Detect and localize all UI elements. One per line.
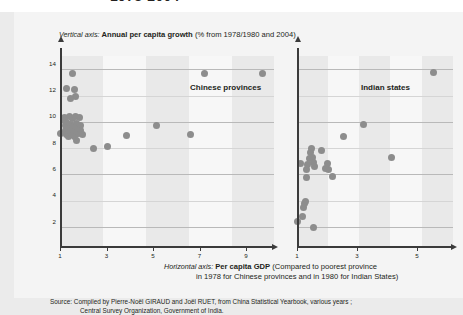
x-tick-label: 1 [290,252,304,259]
gridline [297,201,453,202]
source-note: Source: Compiled by Pierre-Noël GIRAUD a… [50,297,352,315]
data-point [71,86,78,93]
y-tick-label: 10 [42,112,56,119]
data-point [303,174,310,181]
data-point [360,121,367,128]
y-axis-left [60,48,62,248]
horizontal-axis-caption-line2: in 1978 for Chinese provinces and in 198… [196,272,463,282]
data-point [259,70,266,77]
x-axis-right [297,246,453,248]
gridline [297,227,453,228]
group-label-chinese-provinces: Chinese provinces [190,83,261,92]
group-label-indian-states: Indian states [361,83,410,92]
data-point [76,114,83,121]
gridline [60,174,274,175]
horizontal-axis-caption-prefix: Horizontal axis: [164,262,213,271]
y-axis-arrow-icon [295,36,301,42]
y-tick-label: 6 [42,165,56,172]
gridline [60,69,274,70]
y-axis-arrow-icon [58,36,64,42]
data-point [302,198,309,205]
data-point [311,163,318,170]
chart-chinese-provinces: Chinese provinces 2468101214 13579 [60,56,274,248]
data-point [322,165,329,172]
data-point [153,122,160,129]
x-tick-mark [357,248,358,251]
x-tick-mark [417,248,418,251]
gridline [60,122,274,123]
x-tick-label: 5 [410,252,424,259]
horizontal-axis-caption-bold: Per capita GDP [215,262,270,271]
x-tick-mark [60,248,61,251]
gridline [60,96,274,97]
data-point [430,69,437,76]
source-line-2: Central Survey Organization, Government … [80,306,352,315]
vertical-axis-caption-prefix: Vertical axis: [59,30,99,39]
data-point [69,70,76,77]
vertical-axis-caption-bold: Annual per capita growth [102,30,193,39]
source-line-1: Source: Compiled by Pierre-Noël GIRAUD a… [50,298,352,305]
x-tick-label: 5 [146,252,160,259]
x-axis-arrow-icon [272,244,278,250]
x-tick-mark [246,248,247,251]
y-tick-label: 8 [42,139,56,146]
data-point [329,173,336,180]
gridline [297,96,453,97]
y-tick-label: 2 [42,218,56,225]
vertical-axis-caption: Vertical axis: Annual per capita growth … [59,30,296,40]
gridline [60,201,274,202]
data-point [67,95,74,102]
x-axis-arrow-icon [451,244,457,250]
top-title-strip: 1978-2004 [0,0,463,12]
data-point [299,213,306,220]
gridline [297,174,453,175]
data-point [104,143,111,150]
x-tick-mark [297,248,298,251]
gridline [297,122,453,123]
x-tick-mark [107,248,108,251]
vertical-band [422,56,453,248]
horizontal-axis-caption-suffix: (Compared to poorest province [272,262,377,271]
data-point [318,147,325,154]
page-title: 1978-2004 [110,0,180,4]
data-point [308,145,315,152]
chart-indian-states: Indian states 135 [297,56,453,248]
x-tick-label: 9 [239,252,253,259]
data-point [340,133,347,140]
y-tick-label: 4 [42,191,56,198]
vertical-axis-caption-suffix: (% from 1978/1980 and 2004) [195,30,296,39]
figure-panel: Vertical axis: Annual per capita growth … [14,12,463,298]
x-tick-mark [200,248,201,251]
y-tick-label: 14 [42,60,56,67]
x-tick-label: 3 [100,252,114,259]
x-tick-label: 3 [350,252,364,259]
data-point [201,70,208,77]
x-tick-mark [153,248,154,251]
data-point [187,131,194,138]
gridline [60,227,274,228]
y-axis-right [297,48,299,248]
data-point [388,154,395,161]
vertical-band [146,56,189,248]
x-tick-label: 7 [193,252,207,259]
plot-area-right: Indian states [297,56,453,248]
plot-area-left: Chinese provinces [60,56,274,248]
x-tick-label: 1 [53,252,67,259]
x-axis-left [60,246,274,248]
y-tick-label: 12 [42,86,56,93]
data-point [79,131,86,138]
data-point [123,132,130,139]
horizontal-axis-caption: Horizontal axis: Per capita GDP (Compare… [164,262,463,282]
